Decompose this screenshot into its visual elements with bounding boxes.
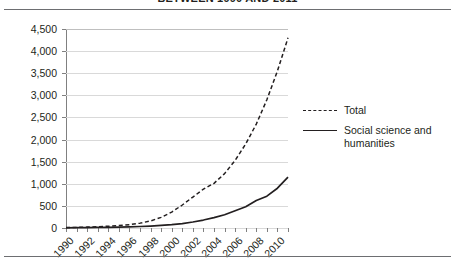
x-axis-tick — [119, 228, 120, 232]
y-axis-tick-label: 3,500 — [13, 68, 57, 78]
y-axis-tick-label: 500 — [13, 201, 57, 211]
series-line — [66, 38, 288, 228]
x-axis-tick — [235, 228, 236, 232]
chart-legend: Total Social science and humanities — [303, 104, 453, 156]
x-axis-tick — [151, 228, 152, 232]
y-axis-tick-label: 2,500 — [13, 112, 57, 122]
y-axis-tick-label: 1,500 — [13, 157, 57, 167]
x-axis-tick — [129, 228, 130, 232]
divider-top — [4, 9, 451, 10]
x-axis-tick — [161, 228, 162, 232]
legend-label-social-science-and-humanities: Social science and humanities — [344, 124, 453, 149]
page-title: BETWEEN 1990 AND 2011 — [0, 0, 455, 4]
x-axis-tick — [140, 228, 141, 232]
x-axis-tick — [256, 228, 257, 232]
plot-area: 4,5004,0003,5003,0002,5002,0001,5001,000… — [66, 29, 288, 228]
y-axis-tick-label: 1,000 — [13, 179, 57, 189]
x-axis-tick — [246, 228, 247, 232]
series-lines-group — [66, 29, 288, 228]
legend-swatch-dashed-icon — [303, 110, 337, 111]
x-axis-tick — [267, 228, 268, 232]
x-axis-tick — [277, 228, 278, 232]
x-axis-tick — [193, 228, 194, 232]
legend-swatch-solid-icon — [303, 130, 337, 131]
series-line — [66, 177, 288, 228]
divider-bottom — [4, 256, 451, 257]
x-axis-tick — [214, 228, 215, 232]
legend-item-social-science-and-humanities: Social science and humanities — [303, 124, 453, 149]
x-axis-tick — [87, 228, 88, 232]
x-axis-tick — [98, 228, 99, 232]
y-axis-tick-label: 2,000 — [13, 135, 57, 145]
legend-label-total: Total — [344, 104, 453, 117]
y-axis-tick-label: 4,000 — [13, 46, 57, 56]
y-axis-tick-label: 4,500 — [13, 24, 57, 34]
x-axis-tick — [225, 228, 226, 232]
x-axis-tick — [77, 228, 78, 232]
x-axis-tick — [108, 228, 109, 232]
chart-title-clip: BETWEEN 1990 AND 2011 — [0, 0, 455, 8]
x-axis-tick — [182, 228, 183, 232]
x-axis-tick — [288, 228, 289, 232]
legend-item-total: Total — [303, 104, 453, 117]
y-axis-tick-label: 0 — [13, 223, 57, 233]
y-axis-tick-label: 3,000 — [13, 90, 57, 100]
x-axis-tick — [203, 228, 204, 232]
x-axis-tick — [172, 228, 173, 232]
